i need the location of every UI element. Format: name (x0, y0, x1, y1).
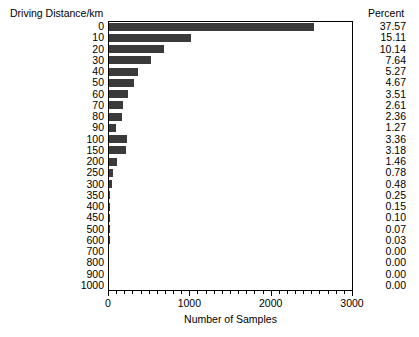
category-label: 1000 (8, 280, 104, 291)
bar-row: 2500.78 (0, 167, 419, 178)
x-axis-minor-tick (132, 291, 133, 294)
x-axis-minor-tick (214, 291, 215, 294)
category-label: 450 (8, 212, 104, 223)
x-axis-major-tick (108, 291, 109, 296)
x-axis-major-tick (189, 291, 190, 296)
bar-row: 2001.46 (0, 156, 419, 167)
bar (109, 180, 112, 188)
driving-distance-histogram: Driving Distance/km Percent 037.571015.1… (0, 0, 419, 337)
bar (109, 90, 128, 98)
x-axis-minor-tick (295, 291, 296, 294)
x-axis-minor-tick (165, 291, 166, 294)
bar (109, 191, 110, 199)
x-axis-minor-tick (181, 291, 182, 294)
bar (109, 101, 123, 109)
bar-row: 037.57 (0, 21, 419, 32)
x-axis-minor-tick (173, 291, 174, 294)
percent-value: 0.78 (360, 167, 406, 178)
percent-column-header: Percent (368, 7, 404, 19)
x-axis-minor-tick (238, 291, 239, 294)
bar-row: 3500.25 (0, 190, 419, 201)
percent-value: 15.11 (360, 32, 406, 43)
category-label: 250 (8, 167, 104, 178)
x-axis-minor-tick (287, 291, 288, 294)
bar (109, 124, 116, 132)
category-label: 800 (8, 257, 104, 268)
category-axis-title: Driving Distance/km (10, 7, 103, 19)
bar-row: 603.51 (0, 89, 419, 100)
x-axis-minor-tick (319, 291, 320, 294)
bar-row: 1003.36 (0, 134, 419, 145)
x-axis-major-tick (352, 291, 353, 296)
x-axis-minor-tick (197, 291, 198, 294)
bar (109, 68, 138, 76)
bar (109, 236, 110, 244)
bar (109, 45, 164, 53)
x-axis-minor-tick (157, 291, 158, 294)
x-axis-minor-tick (263, 291, 264, 294)
bar (109, 203, 110, 211)
category-label: 90 (8, 122, 104, 133)
bar (109, 23, 314, 31)
bar-row: 2010.14 (0, 44, 419, 55)
bar-row: 1015.11 (0, 32, 419, 43)
x-axis (108, 291, 353, 297)
bar (109, 34, 191, 42)
x-axis-minor-tick (230, 291, 231, 294)
category-label: 60 (8, 89, 104, 100)
bar-row: 4000.15 (0, 201, 419, 212)
category-label: 40 (8, 66, 104, 77)
bar-row: 9000.00 (0, 269, 419, 280)
category-label: 80 (8, 111, 104, 122)
bar-row: 802.36 (0, 111, 419, 122)
x-axis-minor-tick (141, 291, 142, 294)
bar (109, 158, 117, 166)
bar (109, 214, 110, 222)
x-axis-minor-tick (246, 291, 247, 294)
bar-row: 1503.18 (0, 145, 419, 156)
x-axis-minor-tick (254, 291, 255, 294)
percent-value: 1.27 (360, 122, 406, 133)
percent-value: 0.10 (360, 212, 406, 223)
category-label: 50 (8, 77, 104, 88)
x-axis-title: Number of Samples (108, 313, 353, 325)
bar-row: 405.27 (0, 66, 419, 77)
bar (109, 169, 113, 177)
x-axis-minor-tick (336, 291, 337, 294)
bar-row: 8000.00 (0, 257, 419, 268)
bar-row: 4500.10 (0, 212, 419, 223)
bar-row: 901.27 (0, 122, 419, 133)
x-axis-minor-tick (124, 291, 125, 294)
category-label: 20 (8, 44, 104, 55)
bar-row: 702.61 (0, 100, 419, 111)
x-axis-minor-tick (303, 291, 304, 294)
x-axis-major-tick (271, 291, 272, 296)
bar (109, 135, 127, 143)
bar (109, 225, 110, 233)
x-axis-minor-tick (344, 291, 345, 294)
bar-row: 5000.07 (0, 224, 419, 235)
percent-value: 4.67 (360, 77, 406, 88)
x-axis-minor-tick (279, 291, 280, 294)
x-axis-tick-label: 3000 (340, 297, 363, 309)
bar (109, 146, 126, 154)
x-axis-minor-tick (206, 291, 207, 294)
bar-row: 307.64 (0, 55, 419, 66)
x-axis-tick-label: 1000 (178, 297, 201, 309)
bar (109, 79, 134, 87)
bar-row: 3000.48 (0, 179, 419, 190)
category-label: 30 (8, 55, 104, 66)
bar-row: 7000.00 (0, 246, 419, 257)
percent-value: 0.00 (360, 280, 406, 291)
category-label: 10 (8, 32, 104, 43)
bar-rows: 037.571015.112010.14307.64405.27504.6760… (0, 21, 419, 291)
category-label: 0 (8, 21, 104, 32)
x-axis-minor-tick (149, 291, 150, 294)
x-axis-tick-label: 0 (105, 297, 111, 309)
x-axis-minor-tick (116, 291, 117, 294)
x-axis-minor-tick (222, 291, 223, 294)
bar-row: 504.67 (0, 77, 419, 88)
bar-row: 6000.03 (0, 235, 419, 246)
category-label: 70 (8, 100, 104, 111)
bar-row: 10000.00 (0, 280, 419, 291)
